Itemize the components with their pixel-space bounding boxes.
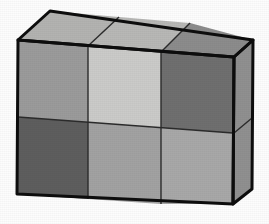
front-cell-r1c2 — [88, 46, 161, 128]
front-face — [17, 40, 234, 204]
front-cell-r1c1 — [18, 40, 88, 122]
right-face-panel — [233, 40, 253, 204]
front-cell-r2c1 — [17, 117, 88, 199]
figure-canvas — [0, 0, 269, 224]
front-cell-r1c3 — [161, 52, 234, 133]
front-cell-r2c2 — [88, 122, 161, 204]
block-figure — [0, 0, 269, 224]
front-cell-r2c3 — [161, 128, 233, 204]
right-side-face — [233, 40, 253, 204]
